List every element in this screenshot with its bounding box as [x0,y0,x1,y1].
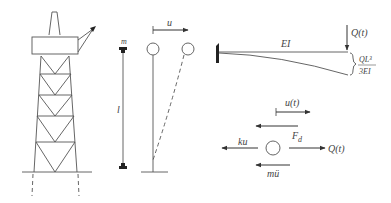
pile-right [78,174,79,196]
deflection-numerator: QL³ [359,55,372,64]
inertia-force-label: mü [267,168,279,179]
derrick-tower [49,12,60,35]
mass-label: m [121,37,127,46]
beam-deflected [219,53,348,75]
diagonal-braces [36,56,75,172]
platform-deck [32,37,78,54]
free-body-diagram: u(t) Fd ku Q(t) mü [222,97,345,179]
horizontal-braces [36,74,75,142]
ut-label: u(t) [285,97,300,109]
cantilever-beam: EI Q(t) QL³ 3EI [216,25,376,76]
mass-deformed [182,43,194,55]
flare-tip-icon [90,26,96,32]
figure-canvas: m l u EI Q(t) QL³ 3EI [0,0,391,203]
pile-left [32,174,33,196]
u-label: u [167,17,172,28]
length-label: l [117,104,120,115]
ei-label: EI [280,38,291,49]
mass-body [266,141,280,155]
mass-undeformed [147,43,159,55]
stick-model: m l [117,37,127,169]
jacket-leg-right [69,56,77,172]
damping-force-label: Fd [291,130,303,144]
deflection-brace [350,53,356,75]
fixed-support [216,43,219,63]
deflected-model: u [141,17,194,172]
flare-boom [78,29,93,52]
spring-force-label: ku [238,136,247,147]
mass-top-block [121,49,125,53]
deflection-denominator: 3EI [358,67,371,76]
column-deformed [153,55,184,160]
jacket-leg-left [34,56,41,172]
applied-force-label: Q(t) [328,143,345,155]
mass-bottom-cap [119,166,127,169]
load-label: Q(t) [351,27,368,39]
offshore-platform [22,12,96,196]
